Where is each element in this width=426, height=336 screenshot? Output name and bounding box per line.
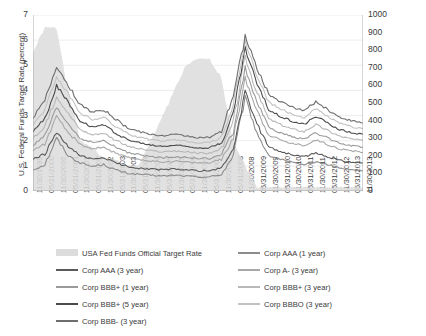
y-tick-left-1: 1 bbox=[6, 161, 28, 170]
y-tick-left-4: 4 bbox=[6, 85, 28, 94]
legend-label: Corp AAA (3 year) bbox=[82, 266, 143, 275]
y-tick-left-2: 2 bbox=[6, 136, 28, 145]
legend-item-corp-aaa-3-year[interactable]: Corp AAA (3 year) bbox=[56, 264, 143, 275]
y-tick-left-3: 3 bbox=[6, 111, 28, 120]
y-tick-left-0: 0 bbox=[6, 186, 28, 195]
legend-item-corp-bbb-3-year[interactable]: Corp BBB+ (3 year) bbox=[238, 281, 330, 292]
legend-item-corp-bbb-1-year[interactable]: Corp BBB+ (1 year) bbox=[56, 281, 148, 292]
plot-area bbox=[33, 15, 363, 191]
legend-label: Corp BBB+ (3 year) bbox=[264, 283, 330, 292]
legend-label: Corp BBB- (3 year) bbox=[82, 317, 147, 326]
y-tick-left-7: 7 bbox=[6, 10, 28, 19]
legend-swatch-line bbox=[238, 286, 260, 288]
legend-label: Corp BBB+ (5 year) bbox=[82, 300, 148, 309]
legend-swatch-area bbox=[56, 249, 78, 256]
y-tick-right-500: 500 bbox=[368, 98, 394, 107]
chart-svg bbox=[33, 15, 363, 191]
y-axis-left-title: U.S. Federal Funds Target Rate (percent) bbox=[17, 30, 26, 180]
legend-item-corp-bbb-5-year[interactable]: Corp BBB+ (5 year) bbox=[56, 298, 148, 309]
legend-label: USA Fed Funds Official Target Rate bbox=[82, 249, 202, 258]
legend-item-corp-bbbo-3-year[interactable]: Corp BBBO (3 year) bbox=[238, 298, 332, 309]
chart-legend: USA Fed Funds Official Target RateCorp A… bbox=[56, 247, 406, 333]
y-tick-left-5: 5 bbox=[6, 60, 28, 69]
legend-swatch-line bbox=[56, 320, 78, 322]
legend-label: Corp BBB+ (1 year) bbox=[82, 283, 148, 292]
y-tick-right-600: 600 bbox=[368, 80, 394, 89]
legend-swatch-line bbox=[238, 303, 260, 305]
y-tick-right-300: 300 bbox=[368, 133, 394, 142]
legend-item-corp-aaa-1-year[interactable]: Corp AAA (1 year) bbox=[238, 247, 325, 258]
legend-swatch-line bbox=[56, 269, 78, 271]
legend-swatch-line bbox=[238, 269, 260, 271]
chart-figure: U.S. Federal Funds Target Rate (percent)… bbox=[0, 0, 426, 336]
legend-item-corp-bbb-3-year[interactable]: Corp BBB- (3 year) bbox=[56, 315, 147, 326]
y-tick-right-900: 900 bbox=[368, 28, 394, 37]
legend-swatch-line bbox=[238, 252, 260, 254]
legend-swatch-line bbox=[56, 286, 78, 288]
legend-label: Corp A- (3 year) bbox=[264, 266, 318, 275]
y-tick-right-800: 800 bbox=[368, 45, 394, 54]
legend-item-usa-fed-funds-official-target-rate[interactable]: USA Fed Funds Official Target Rate bbox=[56, 247, 202, 258]
y-tick-right-700: 700 bbox=[368, 63, 394, 72]
legend-label: Corp BBBO (3 year) bbox=[264, 300, 332, 309]
x-tick-11-30-2013: 11/30/2013 bbox=[366, 157, 374, 193]
y-tick-left-6: 6 bbox=[6, 35, 28, 44]
legend-swatch-line bbox=[56, 303, 78, 305]
legend-label: Corp AAA (1 year) bbox=[264, 249, 325, 258]
area-fed-funds-target-rate bbox=[33, 27, 363, 191]
y-tick-right-1000: 1000 bbox=[368, 10, 394, 19]
legend-item-corp-a-3-year[interactable]: Corp A- (3 year) bbox=[238, 264, 318, 275]
y-tick-right-400: 400 bbox=[368, 116, 394, 125]
